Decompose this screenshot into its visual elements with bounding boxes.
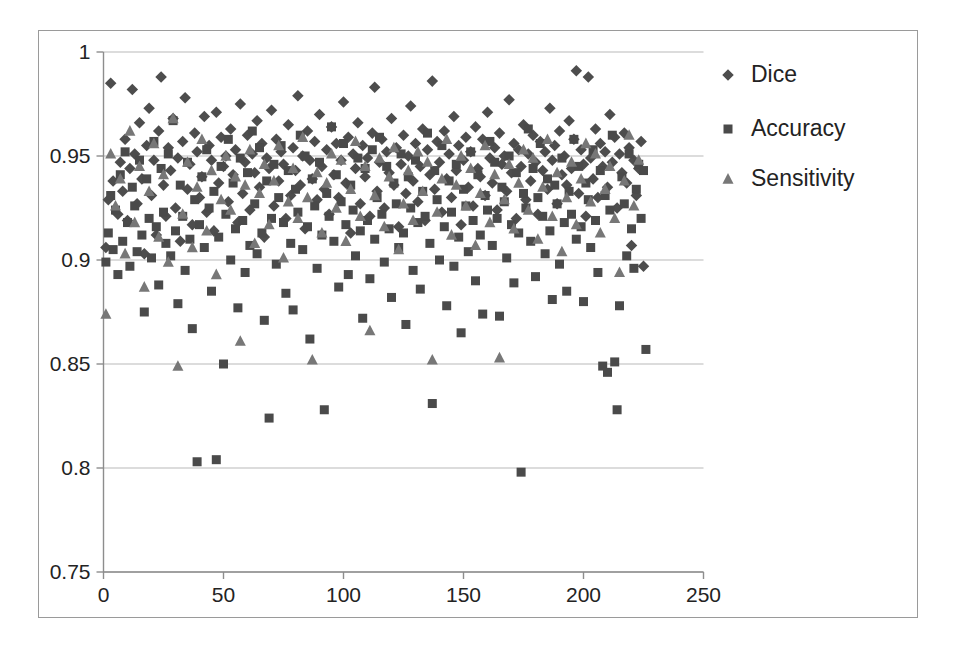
data-point (118, 237, 127, 246)
data-point (583, 71, 595, 83)
data-point (124, 125, 135, 136)
data-point (490, 158, 499, 167)
data-point (513, 177, 524, 188)
scatter-chart: 0.750.80.850.90.951 050100150200250 Dice… (0, 0, 955, 655)
data-point (605, 206, 614, 215)
data-point (626, 240, 638, 252)
data-points (100, 65, 650, 477)
data-point (509, 278, 518, 287)
data-point (279, 218, 288, 227)
data-point (189, 127, 201, 139)
data-point (320, 405, 329, 414)
data-point (553, 199, 562, 208)
data-point (541, 249, 550, 258)
data-point (627, 224, 636, 233)
data-point (410, 138, 422, 150)
data-point (253, 249, 262, 258)
data-point (428, 399, 437, 408)
data-point (427, 354, 438, 365)
data-point (231, 224, 240, 233)
data-point (289, 305, 298, 314)
data-point (351, 251, 360, 260)
data-point (339, 139, 348, 148)
x-axis-tick-label: 250 (686, 583, 721, 606)
data-point (567, 210, 576, 219)
data-point (235, 335, 246, 346)
data-point (545, 226, 554, 235)
data-point (349, 206, 358, 215)
y-axis-tick-label: 0.9 (61, 248, 90, 271)
data-point (117, 186, 129, 198)
data-point (614, 148, 626, 160)
data-point (125, 262, 134, 271)
data-point (303, 222, 312, 231)
data-point (512, 168, 521, 177)
data-point (233, 303, 242, 312)
data-point (240, 179, 251, 190)
data-point (572, 235, 581, 244)
data-point (128, 183, 137, 192)
data-point (573, 188, 585, 200)
data-point (142, 174, 151, 183)
data-point (190, 195, 199, 204)
data-point (603, 368, 612, 377)
data-point (175, 236, 187, 248)
data-point (579, 297, 588, 306)
data-point (281, 289, 290, 298)
y-axis-tick-label: 0.95 (50, 144, 91, 167)
data-point (478, 310, 487, 319)
data-point (195, 220, 204, 229)
data-point (226, 256, 235, 265)
data-point (283, 119, 295, 131)
data-point (460, 132, 472, 144)
data-point (130, 201, 139, 210)
data-point (199, 111, 211, 123)
data-point (364, 325, 375, 336)
data-point (292, 90, 304, 102)
data-point (544, 102, 556, 114)
data-point (265, 414, 274, 423)
data-point (255, 143, 264, 152)
data-point (236, 154, 245, 163)
data-point (145, 214, 154, 223)
data-point (106, 191, 115, 200)
data-point (212, 455, 221, 464)
data-point (625, 149, 634, 158)
data-point (557, 154, 566, 163)
data-point (560, 218, 569, 227)
data-point (124, 163, 136, 175)
data-point (321, 177, 332, 188)
data-point (488, 241, 497, 250)
data-point (369, 82, 381, 94)
chart-legend: DiceAccuracySensitivity (722, 61, 855, 191)
x-axis-tick-label: 100 (326, 583, 361, 606)
data-point (405, 100, 417, 112)
legend-label-sensitivity: Sensitivity (751, 165, 855, 191)
y-axis-tick-label: 0.85 (50, 352, 91, 375)
data-point (251, 115, 263, 127)
x-axis-tick-label: 200 (566, 583, 601, 606)
data-point (307, 354, 318, 365)
data-point (620, 199, 629, 208)
x-axis-tick-label: 150 (446, 583, 481, 606)
data-point (266, 104, 278, 116)
data-point (595, 227, 606, 238)
data-point (547, 210, 558, 221)
data-point (260, 316, 269, 325)
data-point (395, 159, 407, 171)
x-axis-tick-label: 0 (98, 583, 110, 606)
data-point (313, 264, 322, 273)
data-point (224, 135, 233, 144)
data-point (494, 127, 506, 139)
data-point (449, 262, 458, 271)
data-point (493, 214, 502, 223)
data-point (133, 247, 142, 256)
data-point (100, 308, 111, 319)
data-point (211, 107, 223, 119)
data-point (641, 345, 650, 354)
data-point (165, 165, 177, 177)
data-point (483, 206, 492, 215)
data-point (202, 145, 211, 154)
data-point (517, 468, 526, 477)
data-point (423, 129, 432, 138)
